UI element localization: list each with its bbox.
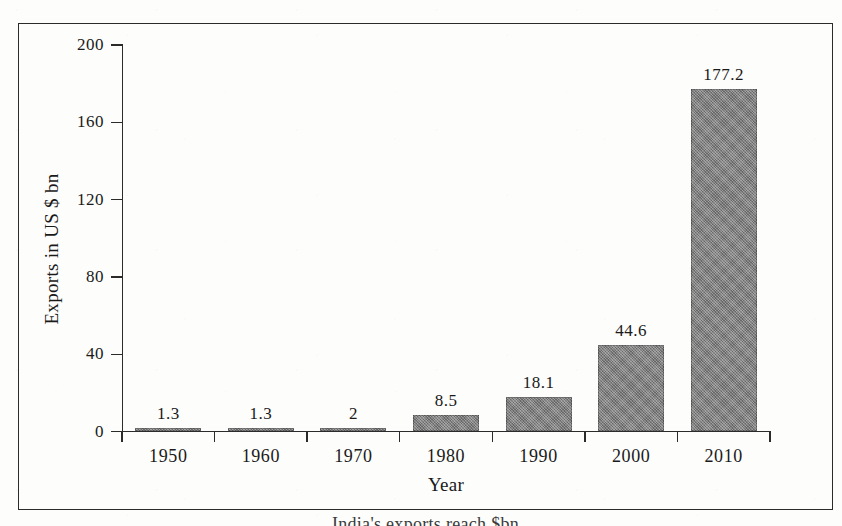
y-tick-label: 40 [42, 345, 104, 362]
x-tick [399, 431, 400, 442]
x-tick [677, 431, 678, 442]
x-tick [492, 431, 493, 442]
y-tick-label: 80 [42, 268, 104, 285]
x-tick-label-1960: 1960 [216, 446, 306, 467]
figure-caption: India's exports reach $bn [18, 514, 833, 526]
bar-1970 [320, 428, 386, 432]
x-axis-title: Year [122, 474, 770, 496]
bar-value-label-1990: 18.1 [484, 373, 594, 393]
y-tick-40 [111, 354, 123, 355]
bar-value-label-1980: 8.5 [391, 391, 501, 411]
x-tick-label-1950: 1950 [123, 446, 213, 467]
bar-1960 [228, 428, 294, 431]
x-tick [306, 431, 307, 442]
bar-2000 [598, 345, 664, 431]
bar-1980 [413, 415, 479, 431]
y-tick-label: 0 [42, 423, 104, 440]
bar-chart: Exports in US $ bn Year 04080120160200 1… [0, 0, 842, 526]
bar-value-label-2010: 177.2 [669, 65, 779, 85]
y-tick-label: 120 [42, 191, 104, 208]
y-tick-label: 160 [42, 113, 104, 130]
bar-value-label-2000: 44.6 [576, 321, 686, 341]
y-axis-line [122, 44, 123, 433]
y-axis-title: Exports in US $ bn [41, 119, 63, 379]
x-tick [214, 431, 215, 442]
x-tick-label-1970: 1970 [308, 446, 398, 467]
bar-1990 [506, 397, 572, 432]
x-tick [584, 431, 585, 442]
bar-1950 [135, 428, 201, 431]
bar-2010 [691, 89, 757, 431]
y-tick-120 [111, 199, 123, 200]
y-tick-label: 200 [42, 36, 104, 53]
y-tick-160 [111, 122, 123, 123]
y-tick-80 [111, 276, 123, 277]
y-tick-200 [111, 44, 123, 45]
x-tick-label-1980: 1980 [401, 446, 491, 467]
x-tick-label-1990: 1990 [494, 446, 584, 467]
x-tick-label-2000: 2000 [586, 446, 676, 467]
x-tick [769, 431, 770, 442]
x-tick [121, 431, 122, 442]
x-tick-label-2010: 2010 [679, 446, 769, 467]
